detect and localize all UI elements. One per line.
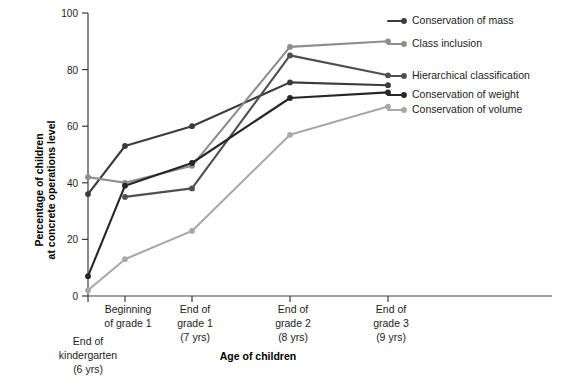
legend-item-class-inclusion: Class inclusion bbox=[388, 37, 482, 49]
data-point bbox=[287, 132, 293, 138]
data-point bbox=[287, 95, 293, 101]
y-tick-label-40: 40 bbox=[67, 178, 79, 189]
x-tick-label-line: of grade 1 bbox=[104, 317, 151, 329]
legend-swatch-marker bbox=[401, 73, 407, 79]
data-point bbox=[122, 183, 128, 189]
series-points-class-inclusion bbox=[85, 38, 391, 185]
y-ticks bbox=[82, 13, 88, 296]
legend-item-conservation-of-weight: Conservation of weight bbox=[388, 88, 519, 100]
legend-item-hierarchical-classification: Hierarchical classification bbox=[388, 69, 530, 81]
x-tick-label-line: End of bbox=[180, 303, 210, 315]
series-line-conservation-of-volume bbox=[88, 107, 388, 291]
x-tick-label-end-grade-1: End of grade 1 (7 yrs) bbox=[177, 303, 213, 343]
x-ticks bbox=[88, 296, 388, 302]
legend-swatch-marker bbox=[401, 107, 407, 113]
x-tick-label-line: kindergarten bbox=[59, 349, 118, 361]
data-point bbox=[122, 194, 128, 200]
data-point bbox=[189, 228, 195, 234]
data-point bbox=[287, 53, 293, 59]
series-points-conservation-of-mass bbox=[85, 80, 391, 198]
x-tick-label-line: grade 2 bbox=[275, 317, 311, 329]
data-point bbox=[189, 160, 195, 166]
legend-label: Hierarchical classification bbox=[412, 69, 530, 81]
chart-page: 0 20 40 60 80 100 bbox=[0, 0, 563, 387]
y-axis-title-line1: Percentage of children bbox=[33, 133, 45, 246]
data-point bbox=[85, 287, 91, 293]
series-line-class-inclusion bbox=[88, 41, 388, 183]
data-point bbox=[189, 123, 195, 129]
x-tick-label-line: (8 yrs) bbox=[278, 331, 308, 343]
y-tick-label-80: 80 bbox=[67, 65, 79, 76]
legend-item-conservation-of-mass: Conservation of mass bbox=[388, 14, 514, 26]
y-tick-label-60: 60 bbox=[67, 121, 79, 132]
legend-label: Conservation of weight bbox=[412, 88, 519, 100]
legend-label: Conservation of mass bbox=[412, 14, 514, 26]
data-point bbox=[85, 273, 91, 279]
x-tick-label-line: grade 1 bbox=[177, 317, 213, 329]
legend-swatch-marker bbox=[401, 18, 407, 24]
legend-item-conservation-of-volume: Conservation of volume bbox=[388, 103, 522, 115]
series-points-hierarchical-classification bbox=[122, 53, 391, 200]
x-axis-title: Age of children bbox=[220, 350, 296, 362]
data-point bbox=[85, 174, 91, 180]
x-tick-label-line: End of bbox=[376, 303, 406, 315]
x-tick-label-line: (9 yrs) bbox=[376, 331, 406, 343]
y-tick-label-100: 100 bbox=[61, 8, 78, 19]
y-tick-label-0: 0 bbox=[72, 291, 78, 302]
legend-label: Conservation of volume bbox=[412, 103, 522, 115]
x-tick-label-line: End of bbox=[73, 335, 103, 347]
x-tick-label-line: (6 yrs) bbox=[73, 363, 103, 375]
data-point bbox=[385, 82, 391, 88]
x-tick-label-line: grade 3 bbox=[373, 317, 409, 329]
data-point bbox=[122, 143, 128, 149]
x-tick-label-line: (7 yrs) bbox=[180, 331, 210, 343]
series-line-hierarchical-classification bbox=[125, 55, 388, 197]
x-tick-label-beginning-grade-1: Beginning of grade 1 bbox=[104, 303, 151, 329]
data-point bbox=[189, 186, 195, 192]
series-line-conservation-of-mass bbox=[88, 82, 388, 194]
legend-swatch-marker bbox=[401, 92, 407, 98]
y-axis-title-line2: at concrete operations level bbox=[45, 120, 57, 259]
x-tick-label-line: End of bbox=[278, 303, 308, 315]
legend: Conservation of mass Class inclusion Hie… bbox=[388, 14, 530, 115]
legend-label: Class inclusion bbox=[412, 37, 482, 49]
data-point bbox=[122, 256, 128, 262]
data-point bbox=[287, 44, 293, 50]
data-point bbox=[85, 191, 91, 197]
x-tick-label-line: Beginning bbox=[105, 303, 152, 315]
x-tick-label-end-grade-2: End of grade 2 (8 yrs) bbox=[275, 303, 311, 343]
x-tick-label-kindergarten: End of kindergarten (6 yrs) bbox=[59, 335, 118, 375]
legend-swatch-marker bbox=[401, 41, 407, 47]
data-point bbox=[385, 104, 391, 110]
y-tick-label-20: 20 bbox=[67, 234, 79, 245]
line-chart: 0 20 40 60 80 100 bbox=[0, 0, 563, 387]
data-point bbox=[287, 80, 293, 86]
x-tick-label-end-grade-3: End of grade 3 (9 yrs) bbox=[373, 303, 409, 343]
